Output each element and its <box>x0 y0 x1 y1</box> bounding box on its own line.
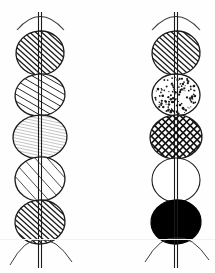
figure-canvas <box>0 0 215 273</box>
figure-root <box>0 0 215 273</box>
right-stem-disc-2 <box>152 74 200 116</box>
right-stem-disc-4 <box>152 158 200 202</box>
